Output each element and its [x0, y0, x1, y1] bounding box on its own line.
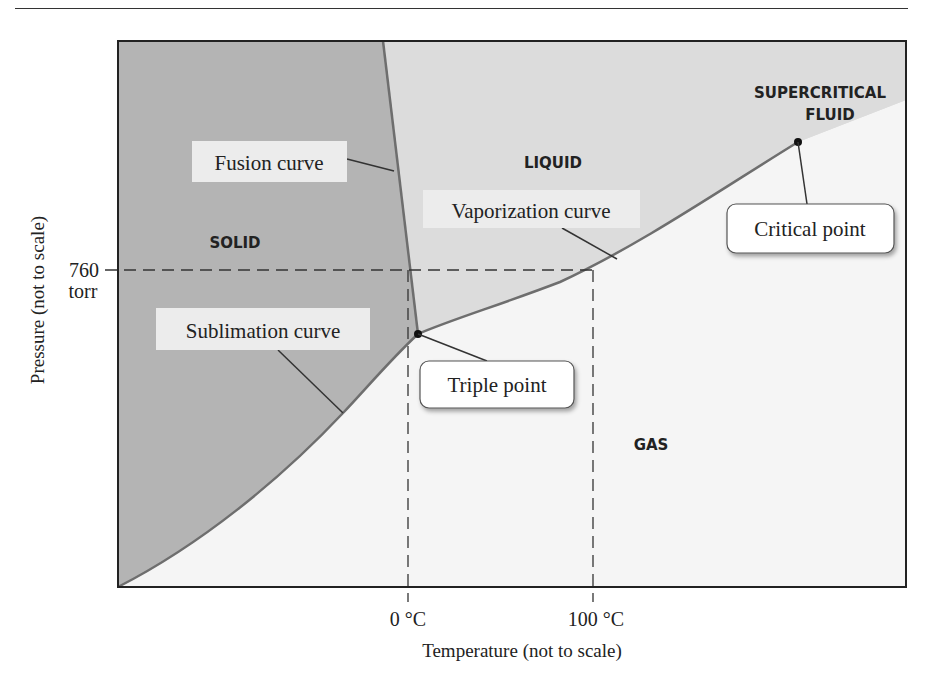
y-tick-760: 760 — [69, 259, 99, 281]
x-tick-100c: 100 °C — [568, 608, 624, 630]
critical-label: Critical point — [754, 217, 866, 241]
vaporization-label: Vaporization curve — [451, 199, 610, 223]
x-tick-0c: 0 °C — [390, 608, 426, 630]
y-tick-torr: torr — [69, 280, 98, 302]
supercritical-label-2: FLUID — [805, 106, 854, 124]
phase-diagram: Fusion curve Vaporization curve Sublimat… — [0, 0, 933, 691]
gas-region-label: GAS — [634, 436, 669, 454]
liquid-region-label: LIQUID — [524, 154, 582, 172]
y-axis-label: Pressure (not to scale) — [27, 216, 49, 384]
sublimation-label: Sublimation curve — [186, 319, 341, 343]
triple-label: Triple point — [448, 373, 547, 397]
fusion-label: Fusion curve — [214, 151, 323, 175]
supercritical-label-1: SUPERCRITICAL — [754, 84, 886, 102]
solid-region-label: SOLID — [209, 234, 260, 252]
x-axis-label: Temperature (not to scale) — [422, 640, 622, 662]
